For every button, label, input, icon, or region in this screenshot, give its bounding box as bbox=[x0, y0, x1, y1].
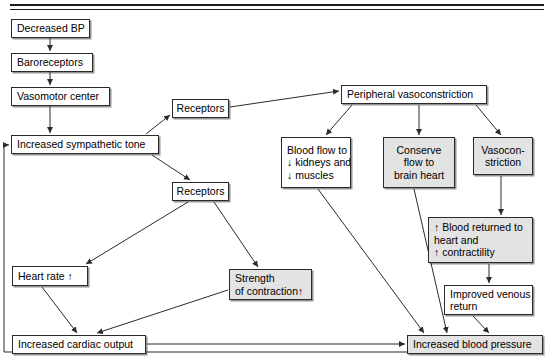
node-vasomotor_center[interactable]: Vasomotor center bbox=[11, 87, 110, 106]
node-blood_returned-line: heart and bbox=[434, 234, 478, 247]
node-strength_contr-line: of contraction↑ bbox=[235, 285, 303, 298]
node-strength_contr-line: Strength bbox=[235, 272, 275, 285]
node-periph_vasoconstr-line: Peripheral vasoconstriction bbox=[347, 88, 473, 101]
edge-receptors-lower-to-strength bbox=[214, 202, 258, 267]
node-vasoconstriction[interactable]: Vasocon-striction bbox=[473, 137, 533, 175]
node-conserve_flow-line: brain heart bbox=[394, 169, 444, 182]
node-receptors_lower[interactable]: Receptors bbox=[172, 182, 229, 201]
node-blood_returned-line: ↑ Blood returned to bbox=[434, 221, 523, 234]
node-conserve_flow-line: flow to bbox=[404, 156, 434, 169]
node-vasoconstriction-line: striction bbox=[485, 156, 521, 169]
node-heart_rate[interactable]: Heart rate ↑ bbox=[12, 266, 88, 286]
node-blood_flow_down-line: Blood flow to bbox=[287, 144, 347, 157]
edge-heart-rate-to-cardiac-output bbox=[42, 287, 77, 333]
node-blood_returned[interactable]: ↑ Blood returned toheart and↑ contractil… bbox=[428, 217, 533, 263]
edge-strength-to-cardiac-output bbox=[97, 290, 228, 333]
node-inc_cardiac_output-line: Increased cardiac output bbox=[18, 338, 133, 351]
edge-sympathetic-to-receptors-lower bbox=[152, 155, 190, 180]
node-improved_venous-line: Improved venous bbox=[450, 288, 531, 301]
node-blood_flow_down-line: ↓ muscles bbox=[287, 169, 334, 182]
node-receptors_upper-line: Receptors bbox=[177, 102, 225, 115]
node-receptors_lower-line: Receptors bbox=[177, 185, 225, 198]
flowchart-canvas: Decreased BPBaroreceptorsVasomotor cente… bbox=[0, 0, 552, 360]
node-baroreceptors-line: Baroreceptors bbox=[17, 56, 83, 69]
node-heart_rate-line: Heart rate ↑ bbox=[18, 270, 73, 283]
edge-blood-flow-to-increased-bp bbox=[318, 189, 424, 333]
edge-peripheral-to-vasoconstriction bbox=[476, 105, 501, 135]
node-conserve_flow[interactable]: Conserveflow tobrain heart bbox=[383, 137, 455, 188]
node-conserve_flow-line: Conserve bbox=[397, 144, 442, 157]
edge-receptors-lower-to-heart-rate bbox=[86, 202, 188, 264]
node-blood_flow_down-line: ↓ kidneys and bbox=[287, 156, 351, 169]
edge-peripheral-to-blood-flow bbox=[326, 105, 352, 135]
node-blood_returned-line: ↑ contractility bbox=[434, 246, 495, 259]
node-inc_symp_tone[interactable]: Increased sympathetic tone bbox=[11, 135, 159, 154]
node-inc_symp_tone-line: Increased sympathetic tone bbox=[17, 138, 145, 151]
node-periph_vasoconstr[interactable]: Peripheral vasoconstriction bbox=[341, 85, 487, 104]
node-inc_cardiac_output[interactable]: Increased cardiac output bbox=[12, 335, 146, 354]
node-decreased_bp[interactable]: Decreased BP bbox=[11, 19, 90, 38]
node-strength_contr[interactable]: Strengthof contraction↑ bbox=[229, 269, 312, 300]
node-decreased_bp-line: Decreased BP bbox=[17, 22, 85, 35]
node-baroreceptors[interactable]: Baroreceptors bbox=[11, 53, 93, 72]
node-vasomotor_center-line: Vasomotor center bbox=[17, 90, 99, 103]
node-improved_venous[interactable]: Improved venousreturn bbox=[444, 285, 533, 315]
node-inc_blood_pressure[interactable]: Increased blood pressure bbox=[407, 335, 543, 354]
node-vasoconstriction-line: Vasocon- bbox=[481, 144, 525, 157]
node-improved_venous-line: return bbox=[450, 300, 477, 313]
node-receptors_upper[interactable]: Receptors bbox=[172, 99, 229, 118]
edge-receptors-upper-to-peripheral bbox=[230, 91, 339, 107]
edge-sympathetic-to-receptors-upper bbox=[146, 115, 170, 134]
edge-improved-venous-to-increased-bp bbox=[473, 316, 489, 333]
node-inc_blood_pressure-line: Increased blood pressure bbox=[413, 338, 532, 351]
node-blood_flow_down[interactable]: Blood flow to↓ kidneys and↓ muscles bbox=[281, 137, 351, 188]
